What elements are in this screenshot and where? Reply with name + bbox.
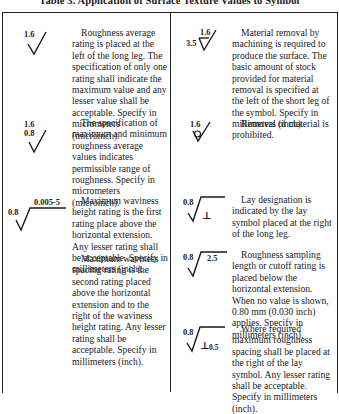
extended-check-surface-icon [183,195,233,227]
prohibited-surface-icon [190,120,220,150]
roughness-spacing-symbol: 0.8 ⊥ 0.5 [183,325,233,357]
extended-check-surface-icon [8,198,68,238]
max-min-roughness-symbol: 1.6 0.8 [24,120,54,160]
description-text: Where required maximum roughness spacing… [232,323,332,414]
extended-check-surface-icon [183,250,233,282]
lay-designation-symbol: 0.8 ⊥ [183,195,233,227]
removal-prohibited-symbol: 1.6 [190,120,220,150]
material-removal-symbol: 1.6 3.5 [192,28,222,60]
check-surface-icon [24,120,54,160]
description-text: Lay designation is indicated by the lay … [232,194,332,240]
column-divider [170,12,171,392]
extended-check-surface-icon [183,325,233,357]
description-text: Material removal by machining is require… [232,27,332,130]
waviness-symbol: 0.8 0.005-5 [8,198,68,238]
machined-surface-icon [192,28,222,60]
roughness-average-symbol: 1.6 [24,30,54,60]
check-surface-icon [24,30,54,60]
table-title: Table 3. Application of Surface Texture … [0,0,339,6]
description-text-2: Maximum waviness spacing rating is the s… [72,253,168,367]
sampling-length-symbol: 0.8 2.5 [183,250,233,282]
description-text: Removal of material is prohibited. [232,118,332,141]
